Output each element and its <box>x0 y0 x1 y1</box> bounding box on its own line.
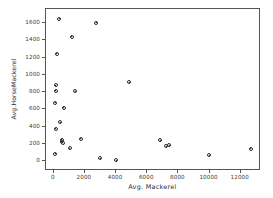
data-point <box>70 35 74 39</box>
data-point <box>54 127 58 131</box>
data-point <box>68 146 72 150</box>
x-tick-mark <box>209 170 210 173</box>
x-tick-mark <box>53 170 54 173</box>
y-tick-mark <box>42 22 45 23</box>
y-tick-label: 1600 <box>25 19 40 25</box>
data-point <box>54 89 58 93</box>
y-tick-label: 1200 <box>25 54 40 60</box>
y-tick-label: 600 <box>29 105 40 111</box>
data-point <box>94 21 98 25</box>
y-tick-mark <box>42 143 45 144</box>
y-tick-mark <box>42 74 45 75</box>
y-tick-label: 800 <box>29 88 40 94</box>
data-point <box>62 106 66 110</box>
data-point <box>54 83 58 87</box>
data-point <box>55 52 59 56</box>
y-tick-mark <box>42 39 45 40</box>
x-tick-mark <box>240 170 241 173</box>
data-point <box>73 89 77 93</box>
y-tick-mark <box>42 160 45 161</box>
y-tick-label: 1400 <box>25 36 40 42</box>
y-tick-label: 400 <box>29 123 40 129</box>
data-point <box>207 153 211 157</box>
x-tick-mark <box>146 170 147 173</box>
data-point <box>127 80 131 84</box>
plot-area <box>45 8 260 170</box>
scatter-plot-figure: 020004000600080001000012000 020040060080… <box>0 0 273 198</box>
data-point <box>53 101 57 105</box>
x-tick-mark <box>84 170 85 173</box>
x-tick-label: 10000 <box>199 174 217 180</box>
y-tick-label: 0 <box>36 157 40 163</box>
x-tick-label: 8000 <box>170 174 185 180</box>
x-tick-label: 12000 <box>231 174 249 180</box>
y-tick-label: 1000 <box>25 71 40 77</box>
data-point <box>167 143 171 147</box>
y-tick-mark <box>42 126 45 127</box>
data-point <box>98 156 102 160</box>
y-axis-label: Avg.HorseMackerel <box>10 59 17 120</box>
x-axis-label: Avg. Mackerel <box>45 183 260 191</box>
data-point <box>53 152 57 156</box>
data-point <box>61 141 65 145</box>
x-tick-label: 2000 <box>77 174 92 180</box>
data-point <box>58 120 62 124</box>
x-tick-mark <box>115 170 116 173</box>
data-points-layer <box>46 9 259 169</box>
x-tick-label: 4000 <box>108 174 123 180</box>
data-point <box>158 138 162 142</box>
data-point <box>79 137 83 141</box>
x-tick-mark <box>177 170 178 173</box>
y-tick-label: 200 <box>29 140 40 146</box>
y-tick-mark <box>42 57 45 58</box>
y-tick-mark <box>42 91 45 92</box>
data-point <box>114 158 118 162</box>
data-point <box>57 17 61 21</box>
data-point <box>249 147 253 151</box>
x-tick-label: 6000 <box>139 174 154 180</box>
x-tick-label: 0 <box>51 174 55 180</box>
y-tick-mark <box>42 108 45 109</box>
